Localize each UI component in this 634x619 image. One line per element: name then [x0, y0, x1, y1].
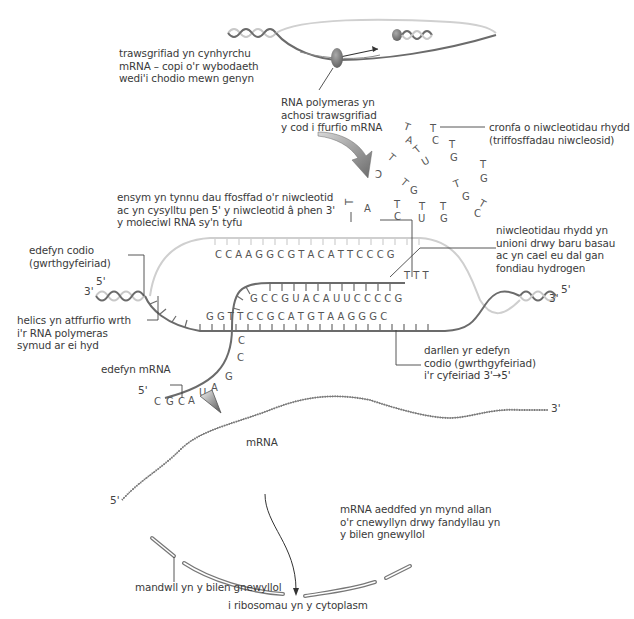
svg-text:U: U: [418, 213, 425, 224]
label-enzyme: ensym yn tynnu dau ffosffad o'r niwcleot…: [117, 191, 335, 229]
svg-text:C: C: [432, 135, 439, 146]
svg-text:T: T: [410, 143, 423, 157]
svg-text:T: T: [393, 199, 401, 210]
label-transcription: trawsgrifiad yn cynhyrchu mRNA – copi o'…: [119, 47, 259, 85]
svg-text:G: G: [225, 371, 233, 382]
label-helix-reforms: helics yn atffurfio wrth i'r RNA polymer…: [17, 314, 131, 352]
svg-text:G: G: [480, 173, 488, 184]
svg-text:T: T: [385, 150, 398, 164]
rna-polymerase-icon: [331, 48, 343, 68]
svg-text:C: C: [237, 352, 244, 363]
label-to-ribosomes: i ribosomau yn y cytoplasm: [228, 599, 368, 612]
bases-bottom-row: G G T T C C G C A T G T A A G G G C: [206, 311, 387, 322]
svg-text:C: C: [238, 335, 245, 346]
svg-text:T: T: [448, 139, 456, 150]
label-read-strand: darllen yr edefyn codio (gwrthgyfeiriad)…: [424, 344, 536, 382]
label-coding-strand: edefyn codio (gwrthgyfeiriad): [29, 244, 111, 269]
svg-text:T: T: [439, 201, 447, 212]
end-left-top: 5': [96, 275, 106, 287]
label-nucleotide-pool: cronfa o niwcleotidau rhydd (triffosffad…: [489, 121, 630, 146]
label-free-nucleotides-align: niwcleotidau rhydd yn unioni drwy baru b…: [496, 224, 615, 274]
svg-text:T: T: [418, 201, 426, 212]
overview-gene-bubble: [228, 20, 496, 90]
end-right-bottom: 3': [549, 292, 559, 304]
svg-text:U: U: [420, 155, 432, 168]
svg-text:T: T: [429, 123, 437, 134]
end-left-bottom: 3': [84, 285, 94, 297]
label-mature-mrna: mRNA aeddfed yn mynd allan o'r cnewyllyn…: [340, 503, 500, 541]
svg-text:G: G: [410, 185, 418, 196]
label-mrna-strand: edefyn mRNA: [101, 363, 170, 376]
svg-text:A: A: [188, 395, 195, 406]
incoming-t-bases: T T T: [403, 270, 430, 281]
label-rna-polymerase: RNA polymeras yn achosi trawsgrifiad y c…: [281, 96, 382, 134]
svg-text:T: T: [344, 198, 355, 206]
label-nuclear-pore: mandwll yn y bilen gnewyllol: [135, 581, 281, 594]
end-right-top: 5': [561, 283, 571, 295]
curved-arrow-icon: [318, 132, 372, 178]
svg-text:C: C: [154, 396, 161, 407]
svg-text:T: T: [451, 177, 462, 190]
transcription-diagram: C C A A G G C G T A C A T T C C C G G C …: [0, 0, 634, 619]
bases-top-row: C C A A G G C G T A C A T T C C C G: [215, 249, 395, 260]
end-mrna-strand-start: 5': [138, 384, 148, 396]
svg-text:G: G: [450, 152, 458, 163]
end-mrna-left: 5': [110, 494, 120, 506]
svg-text:G: G: [440, 213, 448, 224]
bases-rna-row: G C C G U A C A U U C C C C G: [250, 293, 402, 304]
svg-text:T: T: [401, 120, 412, 133]
svg-text:C: C: [375, 168, 382, 179]
svg-text:G: G: [462, 191, 470, 202]
svg-text:A: A: [364, 203, 371, 214]
mature-mrna-strand: [122, 396, 548, 500]
svg-text:C: C: [178, 396, 185, 407]
label-mrna: mRNA: [246, 436, 278, 449]
svg-text:T: T: [479, 159, 487, 170]
svg-text:C: C: [474, 208, 481, 219]
end-mrna-right: 3': [551, 402, 561, 414]
svg-text:G: G: [166, 396, 174, 407]
